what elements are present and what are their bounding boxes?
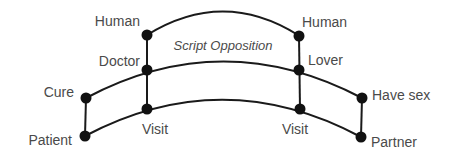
node-human-right bbox=[294, 31, 305, 42]
label-visit-left: Visit bbox=[142, 121, 168, 137]
arc-human bbox=[147, 12, 298, 36]
node-have-sex bbox=[357, 93, 368, 104]
node-visit-right bbox=[295, 104, 306, 115]
label-human-left: Human bbox=[95, 13, 140, 29]
script-opposition-diagram: Script Opposition Human Human Doctor Lov… bbox=[0, 0, 462, 158]
label-partner: Partner bbox=[371, 134, 417, 150]
node-human-left bbox=[142, 30, 153, 41]
label-patient: Patient bbox=[28, 132, 72, 148]
diagram-title: Script Opposition bbox=[174, 38, 273, 53]
arc-visit bbox=[85, 100, 361, 137]
label-human-right: Human bbox=[302, 14, 347, 30]
label-have-sex: Have sex bbox=[372, 87, 430, 103]
label-lover: Lover bbox=[308, 52, 343, 68]
node-cure bbox=[81, 93, 92, 104]
link-havesex-partner bbox=[361, 98, 362, 137]
node-patient bbox=[80, 131, 91, 142]
node-visit-left bbox=[142, 104, 153, 115]
label-cure: Cure bbox=[44, 84, 75, 100]
label-visit-right: Visit bbox=[282, 121, 308, 137]
node-doctor bbox=[142, 65, 153, 76]
node-lover bbox=[294, 65, 305, 76]
label-doctor: Doctor bbox=[99, 53, 141, 69]
node-partner bbox=[356, 132, 367, 143]
link-cure-patient bbox=[85, 98, 86, 136]
